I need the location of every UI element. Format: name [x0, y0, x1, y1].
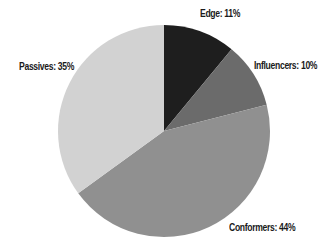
label-influencers: Influencers: 10%	[254, 59, 317, 71]
pie-slices	[58, 25, 270, 237]
pie-chart	[0, 0, 336, 251]
label-conformers: Conformers: 44%	[229, 221, 295, 233]
label-edge: Edge: 11%	[200, 7, 240, 19]
label-passives: Passives: 35%	[19, 60, 74, 72]
